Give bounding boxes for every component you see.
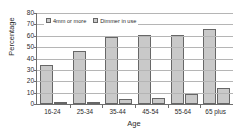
y-axis-tickmark <box>34 81 37 82</box>
gridline <box>37 47 233 48</box>
y-axis-tick-label: 10 <box>20 90 34 96</box>
bar <box>40 65 53 104</box>
legend-label: Dimmer in use <box>100 18 136 24</box>
legend-item: 4mm or more <box>46 18 86 24</box>
x-axis-tick-label: 16-24 <box>36 108 69 115</box>
x-axis-tick-label: 35-44 <box>101 108 134 115</box>
bar <box>152 98 165 104</box>
gridline <box>37 81 233 82</box>
y-axis-tick-label: 20 <box>20 78 34 84</box>
plot-area <box>36 13 233 105</box>
y-axis-tickmark <box>34 47 37 48</box>
y-axis-tick-label: 40 <box>20 56 34 62</box>
bar <box>54 102 67 104</box>
y-axis-tickmark <box>34 13 37 14</box>
bar <box>87 102 100 104</box>
y-axis-tick-label: 0 <box>20 101 34 107</box>
chart-legend: 4mm or moreDimmer in use <box>44 16 138 25</box>
bar <box>185 94 198 104</box>
x-axis-tick-label: 65 plus <box>199 108 232 115</box>
y-axis-tick-label: 80 <box>20 10 34 16</box>
bar <box>217 88 230 104</box>
y-axis-tick-label: 30 <box>20 67 34 73</box>
y-axis-tickmark <box>34 70 37 71</box>
y-axis-tick-label: 50 <box>20 44 34 50</box>
y-axis-tickmark <box>34 36 37 37</box>
bar-chart: Percentage 01020304050607080 4mm or more… <box>0 0 239 134</box>
x-axis-tick-labels: 16-2425-3435-4445-5455-6465 plus <box>36 108 232 118</box>
y-axis-tick-label: 70 <box>20 21 34 27</box>
gridline <box>37 70 233 71</box>
y-axis-tickmark <box>34 93 37 94</box>
legend-label: 4mm or more <box>53 18 86 24</box>
x-axis-tick-label: 25-34 <box>69 108 102 115</box>
gridline <box>37 93 233 94</box>
gridline <box>37 59 233 60</box>
y-axis-tickmark <box>34 59 37 60</box>
legend-item: Dimmer in use <box>93 18 136 24</box>
y-axis-tick-labels: 01020304050607080 <box>20 13 34 104</box>
y-axis-tickmark <box>34 104 37 105</box>
gridline <box>37 36 233 37</box>
x-axis-title: Age <box>36 119 232 128</box>
y-axis-tick-label: 60 <box>20 33 34 39</box>
x-axis-tick-label: 55-64 <box>167 108 200 115</box>
legend-swatch-icon <box>46 18 51 23</box>
bar <box>119 99 132 104</box>
legend-swatch-icon <box>93 18 98 23</box>
y-axis-tickmark <box>34 24 37 25</box>
y-axis-title: Percentage <box>7 9 16 65</box>
x-axis-tick-label: 45-54 <box>134 108 167 115</box>
gridline <box>37 13 233 14</box>
